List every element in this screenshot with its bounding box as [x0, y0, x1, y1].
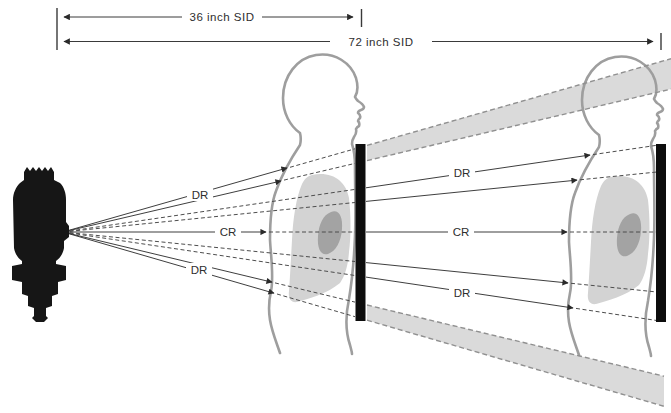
ray-dr-upper-2-solid — [63, 181, 281, 232]
ray-dr72-lower-2-dashed-b — [576, 308, 656, 320]
dr-label-upper-36: DR — [192, 189, 209, 201]
image-receptor-36inch — [356, 144, 366, 321]
ray-dr72-upper-1-solid — [366, 155, 590, 188]
ray-dr72-upper-1-dashed-b — [593, 145, 656, 154]
beam-band-lower-fill — [367, 305, 664, 406]
sid-measurements: 36 inch SID 72 inch SID — [57, 8, 661, 50]
dr-label-lower-72: DR — [454, 287, 471, 299]
sid-divergence-diagram: DR CR DR DR CR DR 36 inch SID 72 inch SI… — [0, 0, 671, 413]
beam-band-upper-fill — [367, 59, 671, 161]
image-receptor-72inch — [656, 144, 666, 322]
cr-label-36: CR — [220, 226, 237, 238]
ray-dr-lower-2-dashed — [277, 294, 355, 317]
diagram-canvas: DR CR DR DR CR DR 36 inch SID 72 inch SI… — [0, 0, 671, 413]
dr-label-lower-36: DR — [191, 264, 208, 276]
ray-dr-upper-1-solid — [63, 168, 287, 232]
dr-label-upper-72: DR — [454, 167, 471, 179]
ray-dr72-lower-1-solid — [366, 263, 568, 283]
patient-figure-36inch — [269, 55, 364, 354]
beam-band-lower-top-edge — [367, 305, 664, 376]
cr-label-72: CR — [453, 226, 470, 238]
xray-tube — [12, 167, 69, 322]
ray-dr-lower-1-solid — [63, 232, 272, 282]
ray-dr-upper-1-dashed — [290, 149, 355, 168]
sid72-label: 72 inch SID — [349, 36, 414, 48]
sid36-label: 36 inch SID — [190, 11, 255, 23]
ray-dr-lower-2-solid — [63, 232, 274, 293]
